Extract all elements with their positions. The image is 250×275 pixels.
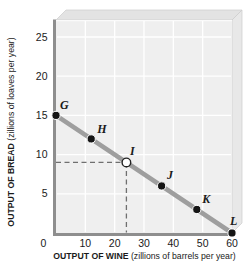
point-J xyxy=(158,182,166,190)
x-tick-50: 50 xyxy=(197,237,209,249)
origin-tick: 0 xyxy=(41,237,47,249)
x-tick-40: 40 xyxy=(167,237,179,249)
point-label-L: L xyxy=(229,214,237,228)
y-tick-20: 20 xyxy=(36,70,48,82)
point-label-J: J xyxy=(166,168,174,182)
y-tick-5: 5 xyxy=(42,187,48,199)
point-label-K: K xyxy=(201,192,211,206)
y-tick-25: 25 xyxy=(36,31,48,43)
x-axis-title-units: (zillions of barrels per year) xyxy=(129,251,236,261)
ppf-figure: GHIJKL0102030405060510152025OUTPUT OF WI… xyxy=(0,0,250,275)
x-axis-title-bold: OUTPUT OF WINE xyxy=(53,251,128,261)
y-tick-15: 15 xyxy=(36,109,48,121)
x-tick-10: 10 xyxy=(79,237,91,249)
point-K xyxy=(193,205,201,213)
y-tick-10: 10 xyxy=(36,148,48,160)
y-axis-title-bold: OUTPUT OF BREAD xyxy=(6,143,16,227)
point-H xyxy=(87,135,95,143)
box-right-face xyxy=(232,10,242,233)
y-axis-title: OUTPUT OF BREAD (zillions of loaves per … xyxy=(6,37,16,226)
x-axis-title: OUTPUT OF WINE (zillions of barrels per … xyxy=(53,251,236,261)
x-tick-20: 20 xyxy=(109,237,121,249)
point-label-G: G xyxy=(60,98,69,112)
box-top-face xyxy=(56,10,242,20)
x-tick-30: 30 xyxy=(138,237,150,249)
x-tick-60: 60 xyxy=(226,237,238,249)
y-axis-title-units: (zillions of loaves per year) xyxy=(6,37,16,143)
point-label-H: H xyxy=(96,122,107,136)
ppf-chart: GHIJKL0102030405060510152025OUTPUT OF WI… xyxy=(0,0,250,275)
point-G xyxy=(52,111,60,119)
point-I xyxy=(122,158,131,167)
